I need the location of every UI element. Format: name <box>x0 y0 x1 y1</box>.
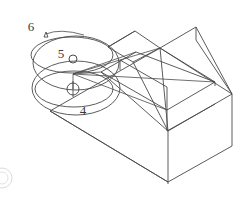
callout-6-triangle-marker <box>44 32 48 37</box>
chamfer-ridge <box>50 48 160 111</box>
callout-label-5: 5 <box>58 46 65 61</box>
callout-5-circle-marker <box>69 55 77 63</box>
body-front-bottom <box>168 146 232 182</box>
diagonal-brace-a <box>168 94 232 131</box>
top-plateau-a <box>108 31 135 47</box>
drawing-canvas: 6 5 4 <box>0 0 246 207</box>
top-rear-edge <box>135 31 160 48</box>
rear-slope-edge <box>196 40 232 94</box>
block-geometry <box>50 27 232 184</box>
callout-label-4: 4 <box>80 103 87 118</box>
body-outline-left <box>50 111 168 182</box>
callout-4-circle-crosshair-marker <box>67 81 79 97</box>
pocket-far-edge <box>136 52 215 82</box>
leader-line-2 <box>73 52 136 74</box>
pocket-right-edge <box>167 82 215 110</box>
callout-4-ellipse <box>35 71 113 107</box>
leader-line-3 <box>73 74 215 82</box>
top-rear-right <box>160 27 196 48</box>
callout-6-ellipse <box>33 36 119 90</box>
leader-6-curve <box>46 31 84 35</box>
page-edge-circle-artifact <box>0 168 12 188</box>
top-far-edge <box>196 27 232 94</box>
callout-label-6: 6 <box>28 19 35 34</box>
diagonal-brace-d <box>160 48 215 82</box>
diagonal-brace-c <box>101 72 168 131</box>
isometric-drawing-svg: 6 5 4 <box>0 0 246 207</box>
